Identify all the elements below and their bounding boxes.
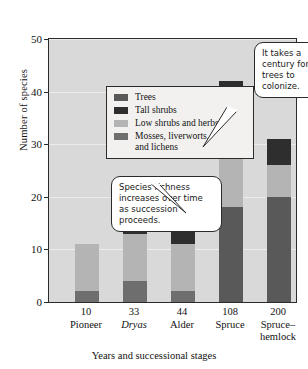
y-tick-mark-0 xyxy=(44,302,49,303)
legend-swatch-icon-2 xyxy=(114,120,128,127)
y-tick-mark-40 xyxy=(44,92,49,93)
legend-label-0: Trees xyxy=(135,92,156,103)
y-tick-label-0: 0 xyxy=(5,296,49,308)
y-tick-mark-20 xyxy=(44,197,49,198)
bar-pioneer xyxy=(75,244,99,302)
bar-spruce-hemlock xyxy=(267,139,291,302)
y-tick-label-30: 30 xyxy=(5,138,49,150)
x-axis-labels: 10Pioneer33Dryas44Alder108Spruce200Spruc… xyxy=(48,306,297,352)
bar-segment-tall-shrubs xyxy=(267,139,291,165)
plot-area: Number of species 01020304050 TreesTall … xyxy=(48,38,297,303)
bar-segment-low-shrubs-and-herbs xyxy=(123,234,147,281)
legend-swatch-icon-1 xyxy=(114,107,128,114)
x-axis-stage-4: Spruce– hemlock xyxy=(248,319,308,344)
legend-swatch-icon-0 xyxy=(114,94,128,101)
y-tick-label-20: 20 xyxy=(5,191,49,203)
callout-trees-colonize: It takes a century for trees to colonize… xyxy=(254,42,308,98)
y-axis-title: Number of species xyxy=(18,1,29,151)
y-tick-mark-10 xyxy=(44,249,49,250)
stacked-bar-chart-figure: Number of species 01020304050 TreesTall … xyxy=(0,0,308,369)
gridline-50 xyxy=(49,39,296,40)
bar-segment-mosses xyxy=(123,281,147,302)
legend-swatch-icon-3 xyxy=(114,133,128,140)
y-tick-mark-30 xyxy=(44,144,49,145)
callout-richness-tail xyxy=(150,181,195,217)
bar-segment-low-shrubs-and-herbs xyxy=(75,244,99,291)
x-axis-years-4: 200 xyxy=(248,306,308,319)
y-tick-label-10: 10 xyxy=(5,243,49,255)
y-tick-label-50: 50 xyxy=(5,33,49,45)
y-tick-mark-50 xyxy=(44,39,49,40)
bar-segment-mosses xyxy=(75,291,99,302)
bar-segment-trees xyxy=(219,207,243,302)
bar-segment-low-shrubs-and-herbs xyxy=(267,165,291,197)
bar-segment-mosses xyxy=(171,291,195,302)
bar-segment-low-shrubs-and-herbs xyxy=(171,244,195,291)
legend-label-1: Tall shrubs xyxy=(135,105,177,116)
callout-trees-tail xyxy=(197,107,239,151)
legend-item-0: Trees xyxy=(114,92,246,103)
y-tick-label-40: 40 xyxy=(5,86,49,98)
x-axis-label-4: 200Spruce– hemlock xyxy=(248,306,308,344)
x-axis-title: Years and successional stages xyxy=(0,350,308,361)
bar-segment-trees xyxy=(267,197,291,302)
